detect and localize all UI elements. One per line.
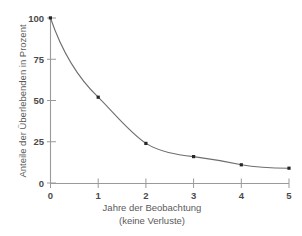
data-point-markers bbox=[49, 16, 291, 170]
y-tick-label-75: 75 bbox=[33, 54, 44, 65]
data-point-year-2 bbox=[144, 142, 147, 145]
y-tick-label-0: 0 bbox=[39, 178, 44, 189]
data-point-year-4 bbox=[240, 163, 243, 166]
data-point-year-1 bbox=[97, 96, 100, 99]
x-axis-title: Jahre der Beobachtung bbox=[103, 202, 202, 213]
data-point-year-0 bbox=[49, 16, 52, 19]
chart-plot-area: 100 75 50 25 0 0 1 2 3 4 5 Anteile der Ü… bbox=[0, 0, 302, 236]
data-point-year-5 bbox=[287, 167, 290, 170]
x-tick-label-3: 3 bbox=[191, 190, 196, 201]
y-tick-marks bbox=[47, 18, 56, 183]
x-tick-label-4: 4 bbox=[239, 190, 245, 201]
x-tick-label-1: 1 bbox=[96, 190, 102, 201]
y-tick-label-100: 100 bbox=[28, 13, 44, 24]
x-tick-label-2: 2 bbox=[143, 190, 148, 201]
y-tick-label-50: 50 bbox=[33, 95, 44, 106]
data-point-year-3 bbox=[192, 155, 195, 158]
survival-curve-path bbox=[51, 18, 290, 168]
x-axis-subtitle: (keine Verluste) bbox=[119, 215, 185, 226]
x-tick-label-5: 5 bbox=[286, 190, 292, 201]
survival-curve-chart: 100 75 50 25 0 0 1 2 3 4 5 Anteile der Ü… bbox=[0, 0, 302, 236]
x-tick-label-0: 0 bbox=[48, 190, 53, 201]
y-axis-title: Anteile der Überlebenden in Prozent bbox=[17, 24, 28, 178]
y-tick-label-25: 25 bbox=[33, 136, 44, 147]
